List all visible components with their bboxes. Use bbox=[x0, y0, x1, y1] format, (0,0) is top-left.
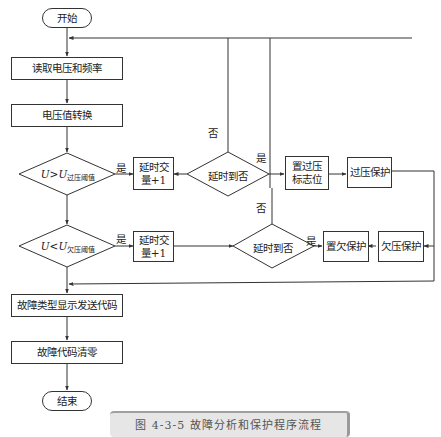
under-delay-no-label: 否 bbox=[256, 200, 266, 215]
voltage-convert-box: 电压值转换 bbox=[11, 104, 123, 127]
under-yes-label: 是 bbox=[116, 231, 126, 246]
over-yes-label: 是 bbox=[116, 160, 126, 175]
over-protect-box: 过压保护 bbox=[347, 157, 392, 188]
set-under-box: 置欠保护 bbox=[323, 231, 369, 262]
end-terminal: 结束 bbox=[42, 391, 92, 411]
read-voltage-frequency-box: 读取电压和频率 bbox=[11, 57, 123, 80]
under-voltage-condition: U<U欠压阈值 bbox=[41, 240, 96, 254]
over-delay-no-label: 否 bbox=[208, 125, 218, 140]
over-cond-main: U>U bbox=[41, 168, 68, 180]
over-delay-check: 延时到否 bbox=[208, 168, 248, 183]
over-delay-increment-box: 延时交量+1 bbox=[133, 157, 174, 190]
start-terminal: 开始 bbox=[42, 8, 92, 28]
set-over-flag-box: 置过压标志位 bbox=[285, 156, 329, 190]
under-cond-sub: 欠压阈值 bbox=[67, 246, 95, 254]
under-protect-box: 欠压保护 bbox=[378, 231, 424, 262]
under-cond-main: U<U bbox=[41, 240, 68, 252]
figure-caption: 图 4-3-5 故障分析和保护程序流程 bbox=[110, 411, 350, 437]
under-delay-yes-label: 是 bbox=[306, 233, 316, 248]
under-delay-increment-box: 延时交量+1 bbox=[133, 231, 174, 262]
fault-display-box: 故障类型显示发送代码 bbox=[11, 294, 123, 317]
over-delay-yes-label: 是 bbox=[256, 150, 266, 165]
over-voltage-condition: U>U过压阈值 bbox=[41, 168, 96, 182]
over-cond-sub: 过压阈值 bbox=[67, 174, 95, 182]
under-delay-check: 延时到否 bbox=[253, 240, 293, 255]
fault-clear-box: 故障代码清零 bbox=[11, 341, 123, 364]
